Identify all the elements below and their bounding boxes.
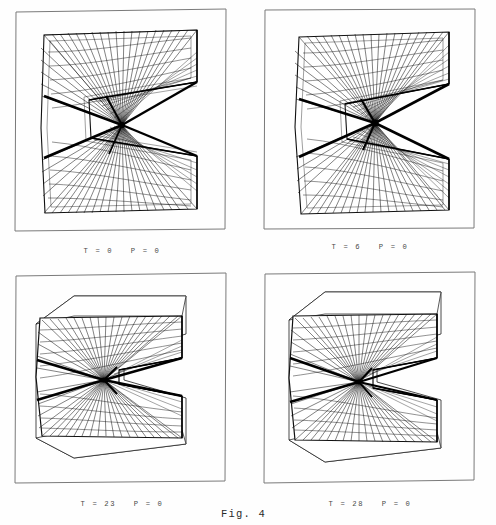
section-mesh [295,32,449,214]
panel-bottom-right [263,272,477,484]
figure-label: Fig. 4 [221,508,266,520]
section-mesh-3d [36,296,186,458]
figure-root: T = 0 P = 0 [0,0,496,525]
scan-edge [490,0,496,525]
panel-bottom-right-canvas [263,272,477,484]
panel-top-left-canvas [14,8,228,232]
panel-bottom-left-canvas [14,272,228,484]
section-mesh [41,30,197,213]
caption-bottom-left: T = 23 P = 0 [52,500,192,508]
caption-top-right: T = 6 P = 0 [300,243,440,251]
panel-top-right-canvas [263,7,477,231]
section-mesh-3d [289,292,441,462]
panel-top-right [263,7,477,231]
caption-top-left: T = 0 P = 0 [52,247,192,255]
caption-bottom-right: T = 28 P = 0 [300,500,440,508]
panel-top-left [14,8,228,232]
panel-bottom-left [14,272,228,484]
